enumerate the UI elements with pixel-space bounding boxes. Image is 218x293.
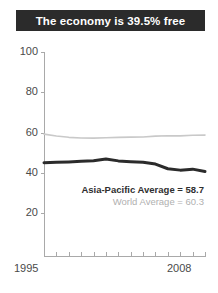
chart-series-layer [0, 0, 218, 293]
asia-pacific-average-line [44, 159, 205, 171]
legend-world: World Average = 60.3 [113, 196, 204, 207]
legend-asia-pacific: Asia-Pacific Average = 58.7 [81, 184, 204, 195]
chart-figure: The economy is 39.5% free 10080604020 19… [0, 0, 218, 293]
world-average-line [44, 134, 205, 138]
